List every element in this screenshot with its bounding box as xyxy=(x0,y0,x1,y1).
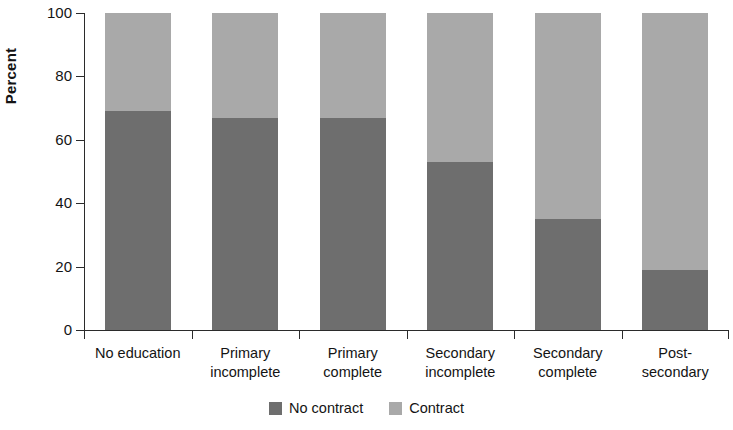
x-axis-category-label-line: complete xyxy=(293,363,413,382)
y-axis-tick-label: 20 xyxy=(32,258,72,275)
x-axis-tick-mark xyxy=(299,330,300,339)
x-axis-category-label-line: Secondary xyxy=(508,344,628,363)
x-axis-category-label-line: complete xyxy=(508,363,628,382)
x-axis-tick-mark xyxy=(84,330,85,339)
legend-swatch-icon xyxy=(389,402,402,415)
chart-legend: No contractContract xyxy=(0,400,733,416)
plot-area xyxy=(84,13,729,330)
bar-segment-contract[interactable] xyxy=(105,13,171,111)
x-axis-category-label-line: No education xyxy=(78,344,198,363)
bar-segment-no-contract[interactable] xyxy=(212,118,278,330)
legend-label: No contract xyxy=(289,400,363,416)
x-axis-category-label-line: secondary xyxy=(615,363,733,382)
x-axis-category-label-line: Primary xyxy=(185,344,305,363)
x-axis-tick-mark xyxy=(407,330,408,339)
x-axis-tick-mark xyxy=(514,330,515,339)
x-axis-category-label: Secondaryincomplete xyxy=(400,344,520,382)
legend-swatch-icon xyxy=(269,402,282,415)
bar-segment-contract[interactable] xyxy=(212,13,278,118)
x-axis-tick-mark xyxy=(728,330,729,339)
x-axis-category-label: Primaryincomplete xyxy=(185,344,305,382)
bar-segment-no-contract[interactable] xyxy=(427,162,493,330)
x-axis-category-label-line: Primary xyxy=(293,344,413,363)
x-axis-category-label: Secondarycomplete xyxy=(508,344,628,382)
x-axis-category-label-line: Post- xyxy=(615,344,733,363)
bar-segment-contract[interactable] xyxy=(427,13,493,162)
x-axis-category-label: No education xyxy=(78,344,198,363)
bar-segment-no-contract[interactable] xyxy=(642,270,708,330)
x-axis-category-label-line: incomplete xyxy=(400,363,520,382)
legend-item[interactable]: Contract xyxy=(389,400,464,416)
bar-segment-no-contract[interactable] xyxy=(320,118,386,330)
y-axis-tick-label: 80 xyxy=(32,67,72,84)
legend-label: Contract xyxy=(409,400,464,416)
x-axis-category-label-line: Secondary xyxy=(400,344,520,363)
bar-segment-contract[interactable] xyxy=(535,13,601,219)
legend-item[interactable]: No contract xyxy=(269,400,363,416)
y-axis-tick-label: 40 xyxy=(32,194,72,211)
x-axis-tick-mark xyxy=(192,330,193,339)
bar-segment-contract[interactable] xyxy=(642,13,708,270)
x-axis-category-label-line: incomplete xyxy=(185,363,305,382)
x-axis-tick-mark xyxy=(622,330,623,339)
y-axis-tick-label: 100 xyxy=(32,4,72,21)
y-axis-tick-label: 0 xyxy=(32,321,72,338)
x-axis-category-label: Primarycomplete xyxy=(293,344,413,382)
x-axis-category-label: Post-secondary xyxy=(615,344,733,382)
bar-segment-no-contract[interactable] xyxy=(535,219,601,330)
y-axis-tick-label: 60 xyxy=(32,131,72,148)
bar-segment-contract[interactable] xyxy=(320,13,386,118)
stacked-bar-chart: Percent 020406080100 No educationPrimary… xyxy=(0,0,733,430)
bar-segment-no-contract[interactable] xyxy=(105,111,171,330)
